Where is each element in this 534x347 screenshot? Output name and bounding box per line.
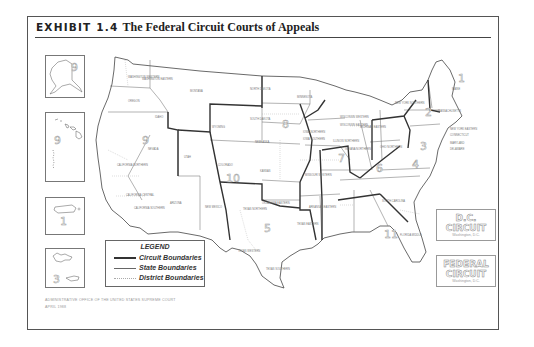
puerto-rico-shape: 1 [54, 205, 80, 228]
state-label: KANSAS [260, 169, 271, 173]
dc-circuit-line2: CIRCUIT [437, 223, 495, 233]
state-label: MISSOURI WESTERN [305, 173, 332, 177]
state-label: IOWA SOUTHERN [303, 137, 325, 141]
state-label: CALIFORNIA SOUTHERN [134, 206, 165, 210]
state-label: UTAH [184, 155, 191, 159]
state-label: MARYLAND [450, 141, 464, 145]
state-label: NEVADA [148, 147, 159, 151]
state-label: OKLAHOMA EASTERN [262, 201, 290, 205]
state-label: ARIZONA [170, 201, 182, 205]
circuit-number-1-puerto-rico: 1 [60, 215, 67, 228]
legend-item-circuit: Circuit Boundaries [114, 254, 202, 261]
circuit-number-9-alaska: 9 [71, 61, 78, 74]
circuit-number: 5 [264, 222, 271, 235]
state-label: CALIFORNIA CENTRAL [126, 193, 155, 197]
footer-source: ADMINISTRATIVE OFFICE OF THE UNITED STAT… [45, 298, 176, 302]
state-label: DELAWARE [450, 147, 465, 151]
legend-title: LEGEND [106, 243, 204, 250]
state-label: OHIO NORTHERN [380, 145, 402, 149]
thin-line-swatch [114, 268, 136, 269]
map-legend: LEGEND Circuit Boundaries State Boundari… [105, 240, 205, 287]
dotted-line-swatch [114, 278, 136, 279]
federal-circuit-box: FEDERAL CIRCUIT Washington, D.C. [436, 255, 496, 287]
state-label: MICHIGAN EASTERN [360, 125, 386, 129]
state-label: WISCONSIN WESTERN [340, 115, 369, 119]
state-label: WYOMING [212, 125, 225, 129]
circuit-number: 10 [226, 172, 240, 185]
state-label: IDAHO [155, 115, 163, 119]
state-label: WASHINGTON EASTERN [142, 77, 173, 81]
state-label: FLORIDA MIDDLE [400, 233, 422, 237]
federal-circuit-location: Washington, D.C. [437, 279, 495, 283]
legend-item-state: State Boundaries [114, 264, 197, 271]
circuit-number: 9 [142, 134, 149, 147]
us-circuit-map: 9 9 1 3 [0, 0, 534, 347]
state-label: COLORADO [218, 163, 233, 167]
dc-circuit-line1: D.C. [437, 213, 495, 223]
circuit-number: 3 [420, 140, 427, 153]
footer-date: APRIL 1988 [45, 305, 66, 309]
circuit-boundaries [168, 76, 440, 240]
state-label: MAINE [452, 87, 460, 91]
state-label: NEBRASKA [255, 140, 269, 144]
state-label: NEW YORK NORTHERN [395, 101, 425, 105]
circuit-number: 7 [338, 152, 345, 165]
dc-circuit-box: D.C. CIRCUIT Washington, D.C. [436, 209, 496, 241]
state-label: NEW MEXICO [205, 205, 222, 209]
state-label: MASSACHUSETTS [438, 109, 461, 113]
circuit-number: 1 [458, 72, 465, 85]
state-label: SOUTH CAROLINA [382, 199, 405, 203]
circuit-number: 11 [384, 228, 398, 241]
state-label: SOUTH DAKOTA [250, 117, 271, 121]
federal-circuit-line1: FEDERAL [437, 259, 495, 269]
state-label: TEXAS EASTERN [297, 222, 319, 226]
alaska-shape: 9 [50, 60, 82, 94]
state-label: MINNESOTA [297, 95, 312, 99]
state-label: MONTANA [190, 89, 203, 93]
circuit-number: 6 [376, 162, 383, 175]
state-label: IOWA NORTHERN [303, 130, 325, 134]
thick-line-swatch [114, 257, 136, 259]
legend-item-district: District Boundaries [114, 274, 204, 281]
federal-circuit-line2: CIRCUIT [437, 269, 495, 279]
state-label: CONNECTICUT [450, 133, 469, 137]
circuit-number: 4 [412, 158, 419, 171]
hawaii-shape: 9 [53, 119, 82, 169]
state-label: ARKANSAS EASTERN [309, 205, 336, 209]
virgin-islands-shape: 3 [53, 253, 79, 286]
state-label: NEW YORK EASTERN [450, 127, 477, 131]
circuit-number-3-vi: 3 [53, 273, 60, 286]
circuit-number: 2 [425, 106, 432, 119]
state-label: TEXAS NORTHERN [243, 207, 267, 211]
dc-circuit-location: Washington, D.C. [437, 233, 495, 237]
circuit-number-9-hawaii: 9 [54, 134, 61, 147]
state-label: CALIFORNIA NORTHERN [117, 163, 148, 167]
state-label: TEXAS WESTERN [238, 249, 260, 253]
state-label: ILLINOIS NORTHERN [333, 139, 359, 143]
state-label: INDIANA NORTHERN [345, 147, 371, 151]
circuit-number: 8 [282, 118, 289, 131]
state-label: TEXAS SOUTHERN [266, 267, 290, 271]
state-label: NORTH DAKOTA [250, 87, 271, 91]
state-label: OREGON [128, 99, 140, 103]
